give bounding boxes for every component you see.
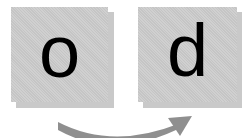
curved-arrow-icon bbox=[0, 0, 242, 138]
